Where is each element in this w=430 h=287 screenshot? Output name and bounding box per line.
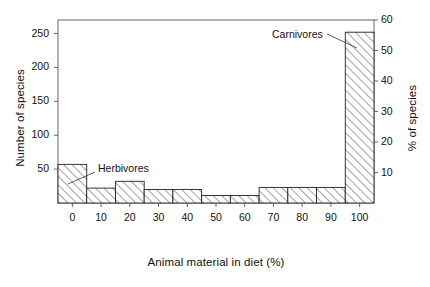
x-tick-label: 30 bbox=[144, 211, 174, 223]
x-tick-label: 100 bbox=[345, 211, 375, 223]
x-tick-label: 0 bbox=[57, 211, 87, 223]
x-tick-label: 40 bbox=[172, 211, 202, 223]
histogram-bar bbox=[317, 187, 346, 203]
histogram-bar bbox=[173, 189, 202, 203]
y-tick-label-left: 250 bbox=[19, 27, 49, 39]
annotation-label: Herbivores bbox=[98, 162, 149, 174]
plot-frame bbox=[58, 20, 374, 203]
x-tick-label: 50 bbox=[201, 211, 231, 223]
y-tick-label-left: 200 bbox=[19, 60, 49, 72]
histogram-bar bbox=[345, 32, 374, 203]
histogram-chart bbox=[0, 0, 430, 287]
y-axis-label-left: Number of species bbox=[14, 58, 26, 178]
x-tick-label: 20 bbox=[115, 211, 145, 223]
histogram-bar bbox=[115, 181, 144, 203]
y-tick-label-left: 100 bbox=[19, 128, 49, 140]
y-tick-label-right: 10 bbox=[381, 166, 411, 178]
x-tick-label: 90 bbox=[316, 211, 346, 223]
histogram-bar bbox=[202, 196, 231, 203]
histogram-bar bbox=[58, 164, 87, 203]
histogram-bar bbox=[230, 196, 259, 203]
y-tick-label-left: 150 bbox=[19, 94, 49, 106]
y-tick-label-right: 50 bbox=[381, 44, 411, 56]
x-tick-label: 70 bbox=[258, 211, 288, 223]
histogram-bar bbox=[87, 188, 116, 203]
y-tick-label-right: 40 bbox=[381, 74, 411, 86]
y-tick-label-right: 60 bbox=[381, 13, 411, 25]
histogram-bar bbox=[288, 187, 317, 203]
x-tick-label: 80 bbox=[287, 211, 317, 223]
histogram-bar bbox=[259, 187, 288, 203]
x-axis-label: Animal material in diet (%) bbox=[58, 256, 374, 268]
x-tick-label: 10 bbox=[86, 211, 116, 223]
x-tick-label: 60 bbox=[230, 211, 260, 223]
y-tick-label-left: 50 bbox=[19, 162, 49, 174]
y-tick-label-right: 20 bbox=[381, 135, 411, 147]
y-tick-label-right: 30 bbox=[381, 105, 411, 117]
histogram-bar bbox=[144, 189, 173, 203]
figure-container: Number of species % of species Animal ma… bbox=[0, 0, 430, 287]
annotation-label: Carnivores bbox=[272, 28, 323, 40]
